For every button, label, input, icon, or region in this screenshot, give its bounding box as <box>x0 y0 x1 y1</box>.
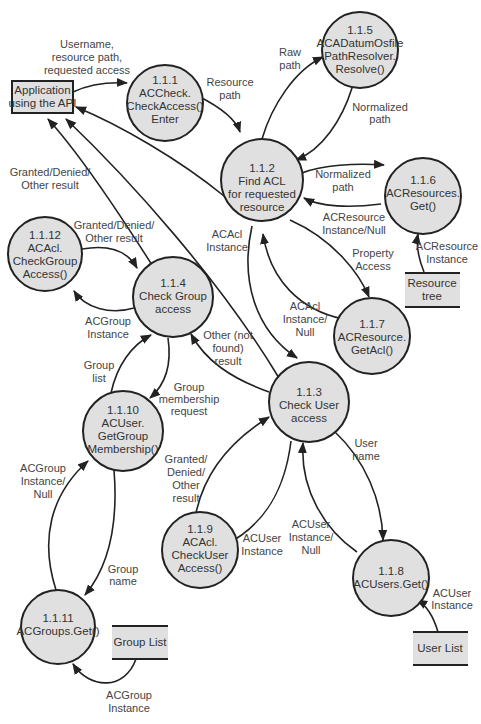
process-label-line: 1.1.3 <box>296 386 322 398</box>
process-label-line: 1.1.9 <box>187 523 213 535</box>
process-label-line: ACUser. <box>102 417 145 429</box>
flow-f4 <box>296 88 352 160</box>
flow-label-f4: Normalized <box>352 101 408 113</box>
flow-label-f20: Group <box>108 563 139 575</box>
flow-label-f21: Instance <box>108 702 150 714</box>
process-label-line: GetGroup <box>98 430 149 442</box>
process-label-line: 1.1.10 <box>107 404 139 416</box>
process-1-1-12: 1.1.12 ACAcl. CheckGroup Access() <box>8 217 82 291</box>
flow-label-f19: Instance/ <box>21 475 67 487</box>
flow-label-f19: ACGroup <box>20 462 66 474</box>
flow-f2 <box>198 96 240 132</box>
process-1-1-8: 1.1.8 ACUsers.Get() <box>353 540 429 616</box>
process-label-line: Find ACL <box>238 175 286 187</box>
flow-label-f15: ACGroup <box>85 315 131 327</box>
flow-label-f5: path <box>332 181 353 193</box>
flow-label-f17: list <box>92 372 105 384</box>
process-label-line: Membership() <box>88 443 159 455</box>
flow-label-f12: Granted/Denied/ <box>10 166 92 178</box>
process-label-line: Check Group <box>139 290 207 302</box>
store-label-line: tree <box>422 290 442 302</box>
process-1-1-5: 1.1.5 ACADatumOsfile PathResolver. Resol… <box>317 12 404 88</box>
flow-f1 <box>73 83 127 92</box>
process-label-line: CheckUser <box>172 549 229 561</box>
flow-label-f2: path <box>219 89 240 101</box>
flow-label-f8: Access <box>355 260 391 272</box>
flow-label-f16: Other (not <box>203 329 253 341</box>
process-label-line: ACADatumOsfile <box>317 37 404 49</box>
flow-label-f22: result <box>173 492 200 504</box>
process-label-line: ACAcl. <box>27 242 62 254</box>
store-label-line: Group List <box>113 636 167 648</box>
process-1-1-6: 1.1.6 ACResources. Get() <box>385 158 461 234</box>
process-label-line: PathResolver. <box>324 50 396 62</box>
flow-label-f25: ACUser <box>292 518 331 530</box>
process-1-1-7: 1.1.7 ACResource. GetAcl() <box>334 298 410 374</box>
process-label-line: ACGroups.Get() <box>16 625 99 637</box>
process-1-1-4: 1.1.4 Check Group access <box>133 257 213 337</box>
process-label-line: 1.1.11 <box>42 612 73 624</box>
process-label-line: Get() <box>410 200 436 212</box>
process-label-line: 1.1.8 <box>378 565 404 577</box>
flow-label-f9: ACAcl <box>290 300 321 312</box>
flow-label-f23: Instance <box>241 545 283 557</box>
flow-label-f7: Instance <box>426 253 468 265</box>
flow-label-f10: Instance <box>206 241 248 253</box>
store-label-line: Resource <box>407 277 456 289</box>
flow-f17 <box>111 335 151 393</box>
flow-f22 <box>196 417 269 513</box>
flow-label-f3: Raw <box>279 46 301 58</box>
process-1-1-1: 1.1.1 ACCheck. CheckAccess() Enter <box>126 65 203 141</box>
flow-label-f20: name <box>109 575 137 587</box>
flow-label-f22: Granted/ <box>165 453 209 465</box>
flow-label-f1: Username, <box>60 38 114 50</box>
flow-label-f19: Null <box>34 488 53 500</box>
flow-label-f15: Instance <box>87 328 129 340</box>
flow-label-f17: Group <box>84 359 115 371</box>
flow-label-f21: ACGroup <box>106 689 152 701</box>
flow-label-f25: Null <box>302 544 321 556</box>
flow-label-f1: requested access <box>44 64 131 76</box>
process-label-line: CheckGroup <box>13 255 78 267</box>
process-label-line: Access() <box>178 562 223 574</box>
flow-label-f18: membership <box>159 393 220 405</box>
data-store-user-list: User List <box>413 632 468 665</box>
flow-label-f10: ACAcl <box>212 228 243 240</box>
flow-f14 <box>82 248 137 268</box>
process-label-line: ACResources. <box>386 187 460 199</box>
process-label-line: 1.1.5 <box>347 24 373 36</box>
process-1-1-9: 1.1.9 ACAcl. CheckUser Access() <box>162 512 238 588</box>
process-label-line: CheckAccess() <box>126 100 203 112</box>
flow-label-f23: ACUser <box>243 532 282 544</box>
flow-label-f6: Instance/Null <box>322 224 386 236</box>
process-label-line: access <box>155 303 191 315</box>
flow-label-f24: name <box>352 450 380 462</box>
flow-label-f9: Instance/ <box>283 313 329 325</box>
flow-label-f4: path <box>369 113 390 125</box>
process-label-line: Enter <box>151 113 179 125</box>
process-label-line: 1.1.2 <box>249 162 275 174</box>
flow-label-f26: ACUser <box>433 587 472 599</box>
flow-label-f22: Other <box>172 479 200 491</box>
flow-f21 <box>73 659 136 683</box>
flow-label-f25: Instance/ <box>289 531 335 543</box>
flow-label-f6: ACResource <box>323 211 385 223</box>
external-entity-app: Application using the API <box>9 81 77 113</box>
flow-label-f26: Instance <box>431 599 473 611</box>
flow-label-f8: Property <box>352 247 394 259</box>
entity-label-line: using the API <box>9 97 77 109</box>
flow-label-f16: found) <box>212 342 243 354</box>
data-store-group-list: Group List <box>112 626 168 659</box>
flow-label-f14: Other result <box>85 232 142 244</box>
flow-label-f16: result <box>215 355 242 367</box>
process-1-1-2: 1.1.2 Find ACL for requested resource <box>221 139 303 221</box>
store-label-line: User List <box>417 642 463 654</box>
flow-label-f9: Null <box>296 326 315 338</box>
process-1-1-3: 1.1.3 Check User access <box>269 362 349 442</box>
data-flow-diagram: Application using the API 1.1.1 ACCheck.… <box>0 0 481 724</box>
process-label-line: access <box>291 412 327 424</box>
process-label-line: 1.1.12 <box>29 229 61 241</box>
flow-f6 <box>304 198 381 206</box>
data-store-resource-tree: Resource tree <box>405 273 460 307</box>
process-label-line: for requested <box>228 188 296 200</box>
